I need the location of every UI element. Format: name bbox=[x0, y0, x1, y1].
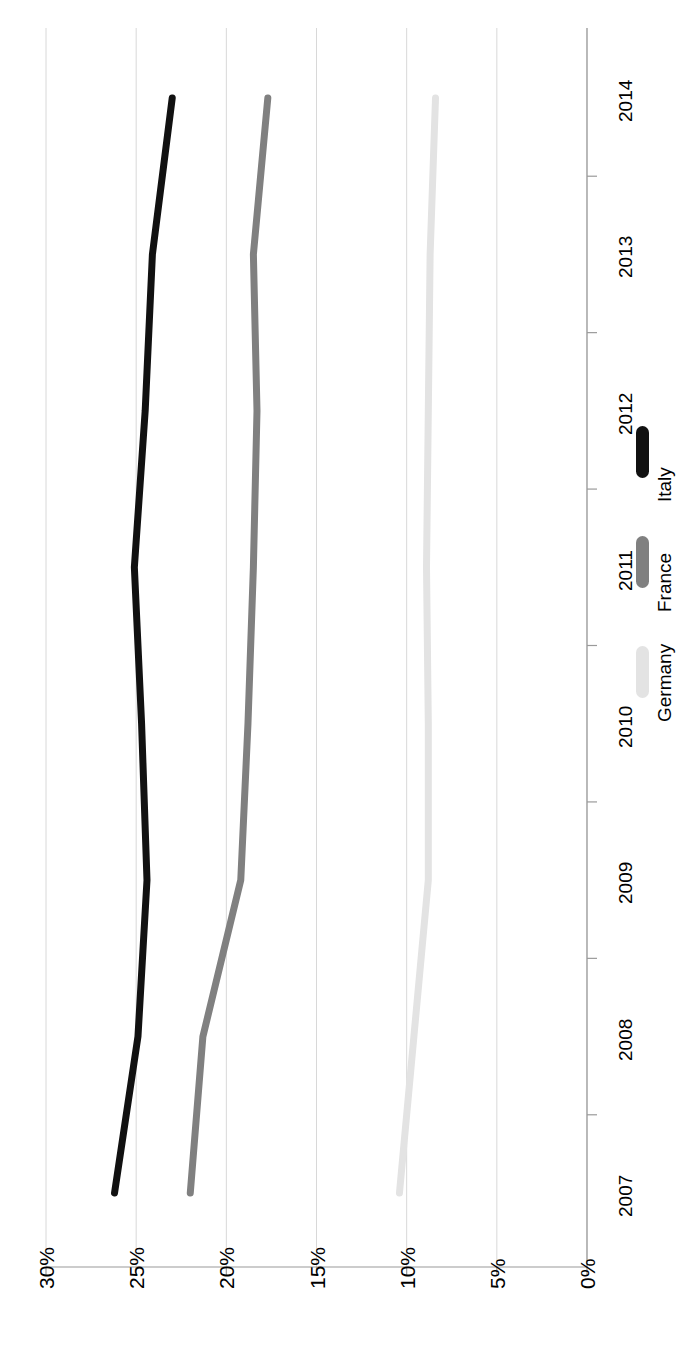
series-line-italy bbox=[115, 98, 173, 1193]
legend-swatch-icon bbox=[636, 646, 649, 698]
legend-swatch-icon bbox=[636, 426, 649, 478]
value-axis-tick-label: 0% bbox=[576, 1259, 600, 1289]
plot-area bbox=[0, 0, 699, 1353]
legend-label: Italy bbox=[654, 467, 676, 502]
category-axis-tick-label: 2013 bbox=[615, 236, 637, 278]
legend-label: France bbox=[654, 553, 676, 612]
series-line-germany bbox=[399, 98, 435, 1193]
value-axis-tick-label: 10% bbox=[396, 1247, 420, 1289]
legend-entry-italy[interactable]: Italy bbox=[628, 390, 688, 520]
value-axis-tick-label: 20% bbox=[215, 1247, 239, 1289]
value-axis-tick-label: 5% bbox=[486, 1259, 510, 1289]
series-line-france bbox=[190, 98, 268, 1193]
value-axis-tick-label: 30% bbox=[35, 1247, 59, 1289]
value-axis-tick-label: 15% bbox=[306, 1247, 330, 1289]
value-axis-tick-label: 25% bbox=[125, 1247, 149, 1289]
chart-page: 30%25%20%15%10%5%0% 20142013201220112010… bbox=[0, 0, 699, 1353]
legend-swatch-icon bbox=[636, 536, 649, 588]
line-chart-svg bbox=[0, 0, 699, 1353]
legend-label: Germany bbox=[654, 644, 676, 722]
category-axis-tick-label: 2007 bbox=[615, 1175, 637, 1217]
chart-legend: GermanyFranceItaly bbox=[628, 380, 688, 800]
category-axis-tick-label: 2009 bbox=[615, 862, 637, 904]
category-axis-tick-label: 2008 bbox=[615, 1018, 637, 1060]
category-axis-tick-label: 2014 bbox=[615, 80, 637, 122]
